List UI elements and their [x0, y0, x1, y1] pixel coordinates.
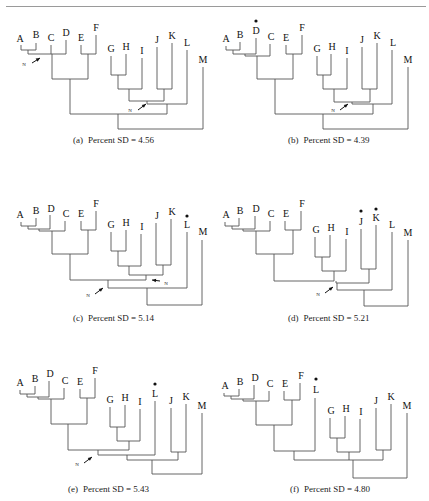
taxon-label: F: [92, 365, 98, 376]
taxon-label: A: [222, 209, 230, 220]
panel-caption-b: (b)Percent SD = 4.39: [288, 135, 370, 145]
moved-taxon-dot-icon: [185, 214, 188, 217]
percent-sd-value: Percent SD = 5.21: [304, 313, 370, 323]
taxon-label: K: [373, 30, 381, 41]
taxon-label: C: [268, 31, 275, 42]
node-label-n: N: [331, 108, 335, 113]
panel-tag: (a): [73, 135, 83, 145]
taxon-label: L: [152, 388, 158, 399]
taxon-label: J: [155, 210, 159, 221]
taxon-label: I: [140, 221, 143, 232]
taxon-label: L: [390, 37, 396, 48]
taxon-label: D: [46, 368, 53, 379]
taxon-label: I: [345, 45, 348, 56]
taxon-label: G: [107, 219, 114, 230]
taxon-label: L: [389, 219, 395, 230]
moved-taxon-dot-icon: [254, 19, 257, 22]
node-arrow-icon: N: [152, 279, 168, 286]
taxon-label: J: [359, 216, 363, 227]
taxon-label: E: [78, 208, 84, 219]
taxon-label: B: [33, 29, 40, 40]
taxon-label: A: [222, 33, 230, 44]
node-arrow-icon: N: [316, 287, 333, 297]
taxon-label: H: [122, 41, 129, 52]
taxon-label: M: [403, 400, 412, 411]
taxon-label: M: [199, 226, 208, 237]
taxon-label: L: [184, 37, 190, 48]
taxon-label: B: [33, 205, 40, 216]
node-arrow-icon: N: [128, 104, 146, 113]
taxon-label: H: [342, 403, 349, 414]
node-arrow-icon: N: [22, 58, 40, 67]
taxon-label: M: [404, 227, 413, 238]
taxon-label: B: [237, 205, 244, 216]
taxon-label: E: [78, 32, 84, 43]
tree-panel-f: ABDCEFLGHIJKM: [221, 370, 411, 478]
moved-taxon-dot-icon: [153, 382, 156, 385]
tree-panel-b: ABDCEFGHIJKLMN: [222, 19, 412, 129]
taxon-label: K: [387, 391, 395, 402]
node-arrow-icon: N: [86, 288, 103, 298]
node-arrow-icon: N: [331, 104, 348, 113]
taxon-label: E: [77, 376, 83, 387]
taxon-label: I: [359, 406, 362, 417]
node-label-n: N: [316, 292, 320, 297]
percent-sd-value: Percent SD = 4.39: [304, 135, 370, 145]
taxon-label: L: [184, 219, 190, 230]
percent-sd-value: Percent SD = 5.43: [83, 484, 149, 494]
taxon-label: H: [121, 392, 128, 403]
node-label-n: N: [86, 293, 90, 298]
taxon-label: D: [252, 203, 259, 214]
panel-caption-d: (d)Percent SD = 5.21: [288, 313, 370, 323]
node-arrow-icon: N: [75, 457, 92, 467]
taxon-label: C: [267, 378, 274, 389]
taxon-label: J: [155, 34, 159, 45]
taxon-label: E: [283, 208, 289, 219]
taxon-label: K: [168, 206, 176, 217]
taxon-label: F: [298, 370, 304, 381]
taxon-label: G: [313, 43, 320, 54]
taxon-label: G: [312, 224, 319, 235]
taxon-label: I: [345, 226, 348, 237]
taxon-label: D: [62, 27, 69, 38]
taxon-label: G: [107, 43, 114, 54]
taxon-label: C: [63, 208, 70, 219]
taxon-label: A: [16, 377, 24, 388]
taxon-label: F: [93, 198, 99, 209]
moved-taxon-dot-icon: [314, 377, 317, 380]
panel-tag: (c): [73, 313, 83, 323]
taxon-label: J: [169, 395, 173, 406]
taxon-label: B: [32, 373, 39, 384]
tree-panel-e: ABDCEFGHILJKMN: [16, 365, 206, 474]
node-label-n: N: [22, 62, 26, 67]
panel-tag: (e): [68, 484, 78, 494]
taxon-label: E: [283, 32, 289, 43]
tree-panel-c: ABDCEFGHIJKLMNN: [16, 198, 207, 305]
taxon-label: D: [251, 372, 258, 383]
taxon-label: A: [16, 33, 24, 44]
node-label-n: N: [128, 108, 132, 113]
taxon-label: G: [106, 394, 113, 405]
node-label-n: N: [164, 281, 168, 286]
taxon-label: L: [313, 384, 319, 395]
panel-caption-c: (c)Percent SD = 5.14: [73, 313, 154, 323]
taxon-label: M: [198, 400, 207, 411]
taxon-label: B: [237, 29, 244, 40]
taxon-label: C: [268, 208, 275, 219]
taxon-label: M: [199, 54, 208, 65]
taxon-label: K: [168, 30, 176, 41]
taxon-label: J: [374, 395, 378, 406]
panel-tag: (d): [288, 313, 299, 323]
panel-tag: (b): [288, 135, 299, 145]
taxon-label: F: [299, 22, 305, 33]
taxon-label: D: [252, 25, 259, 36]
moved-taxon-dot-icon: [359, 209, 362, 212]
taxon-label: M: [404, 54, 413, 65]
taxon-label: D: [47, 203, 54, 214]
taxon-label: B: [237, 376, 244, 387]
taxon-label: C: [48, 32, 55, 43]
panel-caption-a: (a)Percent SD = 4.56: [73, 135, 154, 145]
taxon-label: F: [93, 22, 99, 33]
taxon-label: C: [62, 375, 69, 386]
percent-sd-value: Percent SD = 4.56: [88, 135, 154, 145]
